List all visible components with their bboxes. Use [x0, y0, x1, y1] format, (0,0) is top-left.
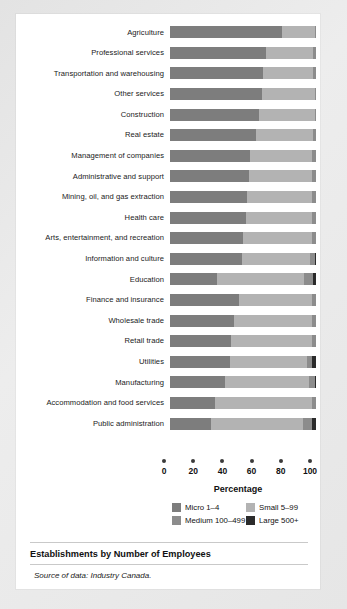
bar-segment: [266, 47, 313, 59]
category-label: Management of companies: [16, 152, 170, 160]
bar-segment: [170, 232, 243, 244]
bar-segment: [304, 273, 313, 285]
chart-row: Accommodation and food services: [16, 393, 320, 414]
category-label: Administrative and support: [16, 173, 170, 181]
bar-segment: [312, 418, 316, 430]
figure-footer: Establishments by Number of Employees So…: [30, 542, 310, 580]
category-label: Real estate: [16, 131, 170, 139]
bar-segment: [312, 212, 316, 224]
bar-segment: [170, 397, 215, 409]
bar-segment: [170, 294, 239, 306]
legend-label: Medium 100–499: [185, 516, 245, 525]
x-axis-tick-dot: [279, 459, 283, 463]
x-axis-tick-marks: [164, 457, 312, 466]
bar-segment: [170, 356, 230, 368]
stacked-bar: [170, 47, 316, 59]
page-background: AgricultureProfessional servicesTranspor…: [0, 0, 347, 609]
bar-segment: [242, 253, 311, 265]
stacked-bar-chart: AgricultureProfessional servicesTranspor…: [16, 22, 320, 452]
legend-label: Large 500+: [259, 516, 299, 525]
bar-segment: [256, 129, 313, 141]
category-label: Construction: [16, 111, 170, 119]
bar-segment: [313, 273, 316, 285]
chart-row: Management of companies: [16, 146, 320, 167]
bar-segment: [313, 129, 316, 141]
stacked-bar: [170, 88, 316, 100]
x-axis-tick-dot: [220, 459, 224, 463]
x-axis-tick-dot: [308, 459, 312, 463]
bar-segment: [170, 335, 231, 347]
footer-divider-top: [30, 542, 308, 543]
chart-row: Agriculture: [16, 22, 320, 43]
bar-segment: [312, 356, 316, 368]
category-label: Finance and insurance: [16, 296, 170, 304]
stacked-bar: [170, 170, 316, 182]
bar-segment: [170, 418, 211, 430]
category-label: Utilities: [16, 358, 170, 366]
bar-segment: [263, 67, 313, 79]
bar-segment: [170, 170, 249, 182]
bar-segment: [215, 397, 311, 409]
bar-segment: [247, 191, 311, 203]
category-label: Professional services: [16, 49, 170, 57]
chart-row: Professional services: [16, 43, 320, 64]
bar-segment: [315, 109, 316, 121]
x-axis-tick-label: 60: [247, 466, 256, 476]
x-axis-tick-label: 0: [162, 466, 167, 476]
chart-legend: Micro 1–4Small 5–99Medium 100–499Large 5…: [172, 503, 320, 525]
bar-segment: [315, 376, 316, 388]
stacked-bar: [170, 109, 316, 121]
stacked-bar: [170, 294, 316, 306]
chart-row: Wholesale trade: [16, 310, 320, 331]
bar-segment: [259, 109, 314, 121]
chart-row: Retail trade: [16, 331, 320, 352]
bar-segment: [170, 26, 282, 38]
legend-swatch-icon: [246, 516, 255, 525]
bar-segment: [262, 88, 315, 100]
legend-label: Small 5–99: [259, 503, 298, 512]
bar-segment: [170, 315, 234, 327]
legend-item: Medium 100–499: [172, 516, 246, 525]
category-label: Mining, oil, and gas extraction: [16, 193, 170, 201]
chart-row: Transportation and warehousing: [16, 63, 320, 84]
bar-segment: [170, 212, 246, 224]
stacked-bar: [170, 253, 316, 265]
stacked-bar: [170, 129, 316, 141]
bar-segment: [312, 191, 316, 203]
bar-segment: [315, 253, 316, 265]
bar-segment: [170, 150, 250, 162]
stacked-bar: [170, 273, 316, 285]
bar-segment: [170, 273, 217, 285]
bar-segment: [312, 315, 316, 327]
x-axis-tick-labels: 020406080100: [164, 466, 312, 478]
figure-title: Establishments by Number of Employees: [30, 549, 310, 559]
bar-segment: [315, 26, 316, 38]
stacked-bar: [170, 26, 316, 38]
bar-segment: [211, 418, 303, 430]
stacked-bar: [170, 232, 316, 244]
bar-segment: [234, 315, 311, 327]
chart-row: Manufacturing: [16, 372, 320, 393]
chart-row: Health care: [16, 207, 320, 228]
bar-segment: [231, 335, 311, 347]
legend-item: Small 5–99: [246, 503, 320, 512]
chart-row: Mining, oil, and gas extraction: [16, 187, 320, 208]
chart-row: Administrative and support: [16, 166, 320, 187]
bar-segment: [249, 170, 312, 182]
bar-segment: [246, 212, 312, 224]
bar-segment: [217, 273, 305, 285]
bar-segment: [170, 191, 247, 203]
chart-row: Arts, entertainment, and recreation: [16, 228, 320, 249]
bar-segment: [312, 232, 316, 244]
category-label: Accommodation and food services: [16, 399, 170, 407]
bar-segment: [170, 376, 225, 388]
x-axis-tick-label: 20: [188, 466, 197, 476]
bar-segment: [312, 294, 316, 306]
legend-swatch-icon: [172, 516, 181, 525]
stacked-bar: [170, 212, 316, 224]
x-axis-tick-label: 80: [276, 466, 285, 476]
bar-segment: [243, 232, 312, 244]
figure-card: AgricultureProfessional servicesTranspor…: [16, 14, 320, 589]
bar-segment: [312, 150, 316, 162]
figure-source: Source of data: Industry Canada.: [30, 571, 310, 580]
